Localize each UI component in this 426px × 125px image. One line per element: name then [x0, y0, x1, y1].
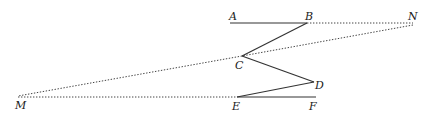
label-m: M [14, 99, 27, 112]
diagram-canvas: A B N C D E F M [0, 0, 426, 125]
label-c: C [235, 59, 244, 72]
label-f: F [308, 100, 317, 113]
label-e: E [231, 100, 240, 113]
segment-de [237, 82, 314, 97]
label-b: B [304, 10, 313, 23]
label-d: D [314, 79, 324, 92]
geometry-diagram: A B N C D E F M [0, 0, 426, 125]
dotted-line-cm [18, 56, 242, 96]
label-n: N [407, 10, 418, 23]
label-a: A [228, 10, 237, 23]
segment-cd [242, 56, 314, 82]
segment-bc [242, 23, 307, 56]
dotted-line-nc [242, 25, 413, 56]
